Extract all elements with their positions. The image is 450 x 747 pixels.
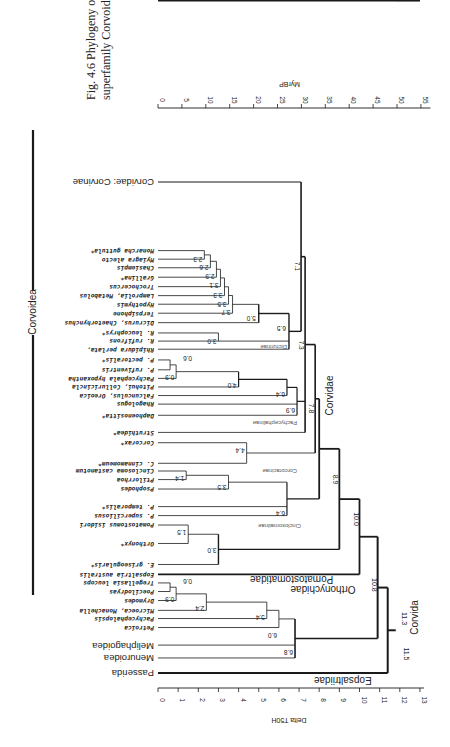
leaf-label: Petroica — [124, 625, 154, 632]
node-value: 7.3 — [298, 341, 305, 350]
node-value: 3.3 — [213, 292, 222, 299]
bottom-axis-tick-label: 13 — [421, 696, 428, 704]
node-value: 10.0 — [353, 512, 360, 526]
top-axis-tick-label: 10 — [207, 96, 214, 104]
bottom-axis-label: Delta T50H — [271, 717, 306, 724]
bottom-axis-tick-label: 11 — [381, 697, 388, 704]
leaf-label: Tregellasia leucops — [83, 579, 154, 587]
top-axis-label: MyrBP — [279, 80, 300, 88]
node-value: 6.0 — [267, 632, 276, 639]
node-value: 1.4 — [175, 475, 184, 482]
phylogeny-tree: 0510152025303540455055MyrBP0123456789101… — [0, 0, 450, 747]
top-axis-tick-label: 55 — [422, 96, 429, 104]
node-value: 2.3 — [193, 256, 202, 263]
leaf-label: Psophodes — [120, 485, 154, 493]
node-value: 5.0 — [246, 315, 255, 322]
leaf-label: Passerida — [111, 668, 154, 679]
top-axis-tick-label: 30 — [302, 96, 309, 104]
node-value: 6.8 — [284, 649, 293, 656]
node-value: 5.4 — [255, 614, 264, 621]
node-value: 6.4 — [276, 510, 285, 517]
bottom-axis-tick-label: 3 — [219, 698, 226, 702]
node-value: 3.7 — [221, 309, 230, 316]
leaf-label: Daphoenositta* — [102, 412, 155, 420]
node-value: 2.6 — [199, 264, 208, 271]
subgroup-label-cinclosomatinae: Cinclosomatinae — [258, 523, 301, 529]
node-value: 1.5 — [177, 529, 186, 536]
leaf-label: Myiagra alecto — [102, 255, 155, 263]
bottom-axis-tick-label: 1 — [179, 698, 186, 702]
leaf-label: Drymodes — [124, 597, 155, 605]
leaf-label: Pitohui, Colluricincla — [72, 384, 154, 391]
bottom-axis-tick-label: 10 — [361, 696, 368, 704]
top-axis-tick-label: 20 — [255, 96, 262, 104]
leaf-label: Lamprolia, Metabolus — [79, 292, 154, 300]
node-value: 8.9 — [332, 475, 339, 485]
leaf-label: R. rufifrons — [109, 338, 154, 345]
node-value: 3.0 — [207, 547, 216, 554]
bottom-axis-tick-label: 7 — [300, 698, 307, 702]
leaf-label: Corvidae: Corvinae — [73, 177, 154, 188]
leaf-label: P. rufiventris — [102, 367, 154, 374]
node-value: 6.5 — [277, 325, 286, 332]
node-value: 2.9 — [205, 273, 214, 280]
leaf-label: Terpsiphone — [113, 310, 154, 318]
top-axis-tick-label: 0 — [159, 98, 166, 102]
group-label-corvida: Corvida — [409, 600, 420, 635]
top-axis-tick-label: 50 — [398, 96, 405, 104]
leaf-label: Dicrurus, Chaetorhynchus — [64, 319, 155, 327]
node-value: 3.1 — [209, 282, 218, 289]
leaf-label: Trochocercus — [109, 284, 154, 291]
leaf-label: Meliphagoidea — [91, 641, 154, 652]
subgroup-label-dicrurinae: Dicrurinae — [261, 344, 287, 350]
top-axis-tick-label: 15 — [231, 96, 238, 104]
node-value: 7.1 — [294, 262, 301, 271]
node-value: 2.4 — [195, 605, 204, 612]
subgroup-label-corcoracinae: Corcoracinae — [263, 468, 297, 474]
leaf-label: R. leucophrys* — [102, 329, 154, 337]
leaf-label: Poecilodryas — [109, 588, 154, 596]
leaf-label: P. temporalis* — [102, 503, 154, 511]
leaf-label: Pachycephalopsis — [94, 615, 154, 623]
node-value: 3.0 — [207, 338, 216, 345]
bottom-axis-tick-label: 0 — [159, 698, 166, 702]
subgroup-label-pachycephalinae: Pachycephalinae — [253, 420, 297, 426]
node-value: 3.5 — [217, 484, 226, 491]
group-label-eopsaltriidae: Eopsaltriidae — [313, 675, 371, 686]
leaf-label: Eopsaltria australis — [79, 571, 154, 579]
leaf-label: Chasiempis — [116, 264, 154, 272]
bottom-axis-tick-label: 9 — [340, 698, 347, 702]
node-value: 0.6 — [183, 578, 192, 585]
group-label-orthonychidae: Orthonychidae — [290, 584, 355, 595]
leaf-label: Struthidea* — [113, 430, 154, 437]
node-value: 6.4 — [276, 391, 285, 398]
node-value: 3.5 — [217, 301, 226, 308]
leaf-label: Rhagologus — [116, 400, 154, 408]
top-axis-tick-label: 35 — [326, 96, 333, 104]
leaf-label: Falcunculus, Oreoica — [79, 393, 154, 400]
leaf-label: Grallina* — [120, 274, 154, 281]
leaf-label: Orthonyx* — [120, 540, 154, 548]
node-value: 11.5 — [403, 647, 410, 660]
bottom-axis-tick-label: 8 — [320, 698, 327, 702]
node-value: 10.8 — [371, 578, 378, 592]
top-axis-tick-label: 25 — [279, 96, 286, 104]
node-value: 0.9 — [165, 596, 174, 603]
node-value: 7.8 — [308, 404, 315, 414]
leaf-label: Pomatostomus isidori — [79, 522, 154, 529]
bottom-axis-tick-label: 4 — [240, 698, 247, 702]
bottom-axis-tick-label: 12 — [401, 696, 408, 704]
node-value: 0.9 — [165, 374, 174, 381]
leaf-label: E. griseogularis* — [90, 561, 154, 569]
top-axis-tick-label: 45 — [374, 96, 381, 104]
leaf-label: Cinclosoma castanotum — [75, 468, 154, 475]
leaf-label: Microeca, Monachella — [79, 608, 155, 615]
leaf-label: Pachycephala hypoxantha — [68, 375, 154, 383]
node-value: 4.4 — [235, 447, 244, 454]
leaf-label: C. cinnamomeum* — [98, 461, 154, 468]
leaf-label: P. superciliosus — [94, 512, 154, 520]
node-value: 6.9 — [286, 407, 295, 414]
top-axis-tick-label: 40 — [350, 96, 357, 104]
leaf-label: Menuroidea — [103, 653, 154, 664]
node-value: 11.3 — [401, 612, 408, 625]
